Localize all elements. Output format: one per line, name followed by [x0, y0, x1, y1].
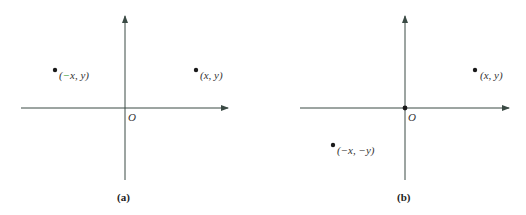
point-label-neg-x-y: (−x, y) — [59, 69, 89, 82]
origin-label: O — [128, 111, 136, 123]
origin-point — [403, 106, 408, 111]
figure: (−x, y) (x, y) O (a) (x, y) (−x, −y) O (… — [0, 0, 526, 215]
point-label-x-y: (x, y) — [480, 69, 503, 82]
caption-a: (a) — [117, 191, 130, 204]
caption-b: (b) — [397, 191, 411, 204]
point-x-y — [194, 68, 198, 72]
point-label-neg-x-neg-y: (−x, −y) — [337, 144, 375, 157]
point-neg-x-y — [53, 68, 57, 72]
point-label-x-y: (x, y) — [200, 69, 223, 82]
panel-a: (−x, y) (x, y) O (a) — [21, 16, 228, 204]
point-neg-x-neg-y — [331, 143, 335, 147]
point-x-y — [473, 68, 477, 72]
panel-b: (x, y) (−x, −y) O (b) — [300, 16, 509, 204]
origin-label: O — [408, 111, 416, 123]
